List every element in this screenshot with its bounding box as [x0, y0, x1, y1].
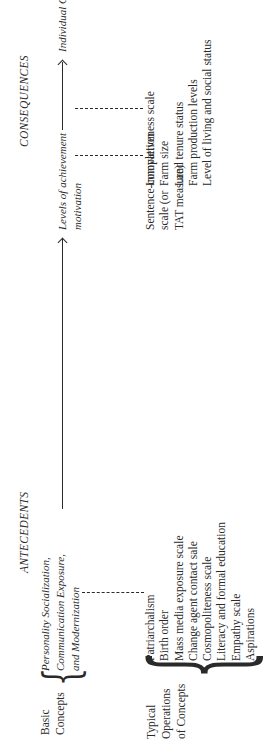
list-item: Level of living and social status: [200, 39, 214, 186]
list-item: Patriarchalism: [143, 522, 157, 661]
list-item: Change agent contact sale: [186, 522, 200, 661]
intervening-dashed-connector: [75, 155, 143, 156]
list-item: Empathy scale: [229, 522, 243, 661]
consequences-header: CONSEQUENCES: [17, 55, 31, 147]
list-item: Aspirations: [243, 522, 257, 661]
basic-concepts-label: Basic Concepts: [38, 692, 68, 735]
consequence-operations-list: Innovativeness scale Farm size Land tenu…: [143, 39, 214, 186]
antecedent-operations-list: Patriarchalism Birth order Mass media ex…: [143, 522, 257, 661]
arrow-head-2: [58, 60, 68, 70]
consequence-dashed-connector: [75, 108, 143, 109]
antecedent-dashed-connector: [82, 592, 144, 593]
list-item: Innovativeness scale: [143, 39, 157, 186]
list-item: Cosmopoliteness scale: [200, 522, 214, 661]
antecedents-header: ANTECEDENTS: [17, 492, 31, 573]
diagram-page: ANTECEDENTS CONSEQUENCES Basic Concepts …: [0, 0, 263, 741]
typical-operations-label: Typical Operations of Concepts: [144, 684, 189, 739]
list-item: Mass media exposure scale: [172, 522, 186, 661]
consequence-concept: Individual Occupational Excellence: [55, 0, 70, 52]
list-item: Literacy and formal education: [214, 522, 228, 661]
list-item: Farm production levels: [186, 39, 200, 186]
antecedent-concept: Personality Socialization, Communication…: [38, 554, 83, 671]
intervening-concept: Levels of achievement motivation: [55, 133, 85, 230]
list-item: Land tenure status: [172, 39, 186, 186]
arrow-line-2: [62, 62, 63, 130]
arrow-line-1: [62, 239, 63, 509]
list-item: Farm size: [157, 39, 171, 186]
list-item: Birth order: [157, 522, 171, 661]
arrow-head-1: [58, 238, 68, 248]
